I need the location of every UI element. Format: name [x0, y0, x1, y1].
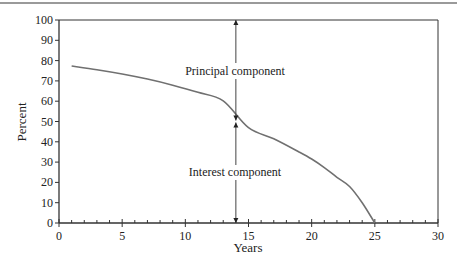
interest-arrow-head-down-icon [233, 218, 238, 223]
x-tick-label: 30 [432, 229, 444, 243]
x-axis-title: Years [233, 240, 262, 255]
y-tick-label: 100 [35, 13, 53, 27]
y-tick-label: 10 [41, 196, 53, 210]
principal-label: Principal component [185, 64, 285, 78]
principal-arrow-head-up-icon [233, 20, 238, 25]
ticks: 0102030405060708090100051015202530 [35, 13, 444, 243]
x-tick-label: 25 [369, 229, 381, 243]
y-axis-title: Percent [14, 102, 29, 141]
y-tick-label: 0 [47, 216, 53, 230]
x-tick-label: 0 [56, 229, 62, 243]
y-tick-label: 50 [41, 115, 53, 129]
principal-arrow-head-down-icon [233, 116, 238, 121]
interest-arrow-head-up-icon [233, 123, 238, 128]
amortization-chart: 0102030405060708090100051015202530 Princ… [0, 0, 457, 272]
y-tick-label: 80 [41, 54, 53, 68]
y-tick-label: 40 [41, 135, 53, 149]
x-tick-label: 5 [119, 229, 125, 243]
axes [59, 20, 438, 223]
y-tick-label: 70 [41, 74, 53, 88]
data-curve [72, 66, 375, 223]
y-tick-label: 30 [41, 155, 53, 169]
y-tick-label: 60 [41, 94, 53, 108]
x-tick-label: 10 [179, 229, 191, 243]
interest-label: Interest component [189, 165, 282, 179]
x-tick-label: 20 [306, 229, 318, 243]
y-tick-label: 20 [41, 175, 53, 189]
y-tick-label: 90 [41, 33, 53, 47]
component-arrows [233, 20, 238, 223]
